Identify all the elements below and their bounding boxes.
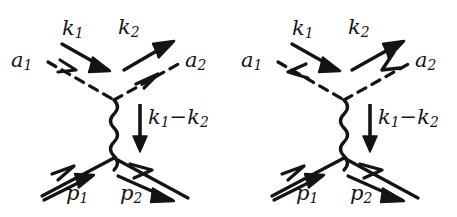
label-p2: p2 <box>350 183 372 206</box>
photon-a1-arrowhead-reversed <box>288 64 308 78</box>
fermion-p1-arrowhead <box>282 166 304 180</box>
label-a1: a1 <box>11 50 32 73</box>
momentum-arrow-q-head <box>133 136 147 152</box>
label-propagator-momentum: k1−k2 <box>148 107 209 130</box>
label-k2: k2 <box>118 17 140 40</box>
label-p1: p1 <box>296 183 318 206</box>
label-propagator-momentum: k1−k2 <box>378 107 439 130</box>
feynman-diagram-figure: k1 k2 a1 a2 k1−k2 p1 p2 <box>0 0 457 217</box>
momentum-arrow-q-head <box>363 136 377 152</box>
feynman-diagram-left: k1 k2 a1 a2 k1−k2 p1 p2 <box>0 0 228 217</box>
label-p2: p2 <box>120 183 142 206</box>
label-k1: k1 <box>62 18 84 41</box>
fermion-p1-arrowhead <box>52 166 74 180</box>
label-a1: a1 <box>241 50 262 73</box>
label-p1: p1 <box>66 183 88 206</box>
photon-a1-arrowhead <box>58 60 76 72</box>
photon-line-a2 <box>114 62 182 100</box>
label-k1: k1 <box>292 18 314 41</box>
label-k2: k2 <box>348 17 370 40</box>
momentum-arrow-k2-head <box>152 41 174 58</box>
label-a2: a2 <box>185 50 206 73</box>
label-a2: a2 <box>415 50 436 73</box>
feynman-diagram-right: k1 k2 a1 a2 k1−k2 p1 p2 <box>228 0 456 217</box>
